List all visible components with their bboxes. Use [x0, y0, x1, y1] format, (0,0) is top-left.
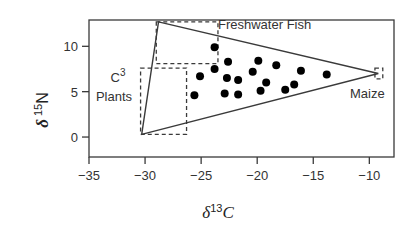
- c3-label-c: C: [111, 70, 120, 85]
- mixing-triangle-outline: [142, 22, 379, 135]
- data-point: [254, 57, 262, 65]
- x-tick-label: −15: [302, 168, 324, 183]
- data-point: [234, 76, 242, 84]
- freshwater-fish-label: Freshwater Fish: [218, 17, 311, 32]
- y-title-sup: 15: [32, 104, 44, 119]
- data-point: [190, 91, 198, 99]
- data-point: [211, 65, 219, 73]
- x-tick-label: −35: [78, 168, 100, 183]
- x-tick-label: −30: [134, 168, 156, 183]
- x-title-element: C: [222, 203, 234, 222]
- c3-label-sup: 3: [120, 67, 126, 78]
- data-point: [272, 61, 280, 69]
- data-point: [262, 79, 270, 87]
- y-title-element: N: [34, 92, 51, 104]
- y-tick-label: 10: [64, 39, 78, 54]
- x-axis-title: δ13C: [202, 202, 234, 222]
- source-boxes: [141, 22, 383, 135]
- data-point: [297, 67, 305, 75]
- data-point: [221, 89, 229, 97]
- maize-label: Maize: [350, 86, 385, 101]
- axis-ticks: −35−30−25−20−15−100510: [64, 39, 381, 183]
- mixing-triangle: [142, 22, 379, 135]
- x-title-sup: 13: [210, 202, 222, 214]
- c3-label-plants: Plants: [96, 89, 133, 104]
- y-tick-label: 0: [71, 130, 78, 145]
- x-tick-label: −20: [246, 168, 268, 183]
- data-point: [211, 43, 219, 51]
- data-point: [281, 86, 289, 94]
- plot-border: [89, 20, 394, 157]
- data-point: [323, 70, 331, 78]
- data-point: [223, 74, 231, 82]
- data-point: [249, 68, 257, 76]
- y-axis-title: δ 15N: [32, 92, 52, 128]
- c3-plants-label: C3Plants: [96, 67, 133, 104]
- data-point: [257, 87, 265, 95]
- y-tick-label: 5: [71, 85, 78, 100]
- plot-frame: [89, 20, 394, 157]
- data-point: [196, 72, 204, 80]
- x-tick-label: −10: [358, 168, 380, 183]
- data-point: [224, 58, 232, 66]
- isotope-scatter-chart: −35−30−25−20−15−100510 Freshwater Fish C…: [0, 0, 417, 231]
- data-point: [234, 90, 242, 98]
- y-title-delta: δ: [33, 119, 52, 128]
- data-point: [290, 80, 298, 88]
- x-tick-label: −25: [190, 168, 212, 183]
